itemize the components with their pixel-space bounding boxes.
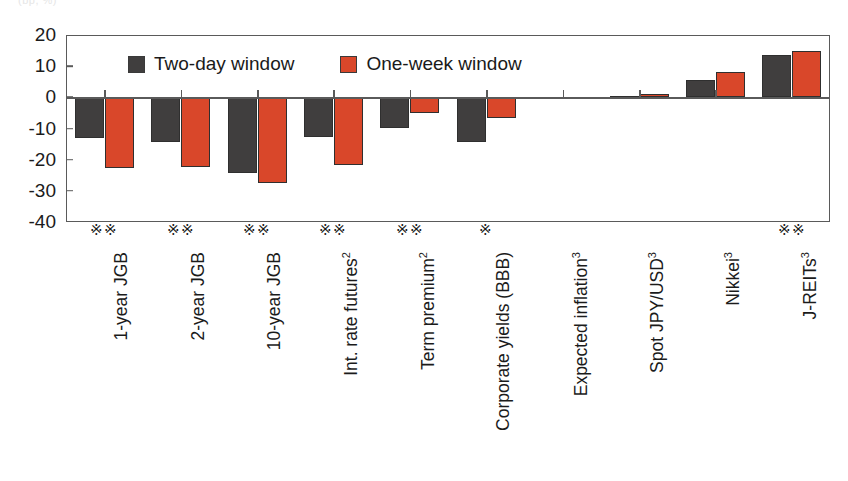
significance-mark: ※※ xyxy=(778,222,806,237)
x-axis-category-label: Int. rate futures2 xyxy=(340,252,362,376)
significance-mark: ※※ xyxy=(396,222,424,237)
unit-caption: (bp, %) xyxy=(18,0,57,6)
x-axis-category-label: Term premium2 xyxy=(417,252,439,370)
legend-swatch-icon xyxy=(340,56,357,73)
category-labels-layer: 1-year JGB2-year JGB10-year JGBInt. rate… xyxy=(66,252,830,452)
y-axis-tick-label: 20 xyxy=(35,24,56,46)
y-axis-labels: 20100-10-20-30-40 xyxy=(0,35,62,222)
y-axis-tick-mark xyxy=(66,128,73,130)
y-axis-tick-label: -10 xyxy=(29,118,56,140)
x-axis-tick-mark xyxy=(410,90,412,97)
x-axis-tick-mark xyxy=(333,90,335,97)
x-axis-category-label: Corporate yields (BBB) xyxy=(493,252,514,431)
bar xyxy=(762,55,791,97)
bar xyxy=(792,51,821,98)
x-axis-category-label: 10-year JGB xyxy=(264,252,285,350)
significance-mark: ※※ xyxy=(319,222,347,237)
significance-mark: ※※ xyxy=(90,222,118,237)
y-axis-tick-label: 10 xyxy=(35,55,56,77)
bar xyxy=(75,97,104,138)
bar xyxy=(304,97,333,137)
bar xyxy=(410,97,439,113)
x-axis-category-label: 1-year JGB xyxy=(111,252,132,341)
x-axis-tick-mark xyxy=(792,90,794,97)
y-axis-tick-mark xyxy=(66,65,73,67)
bar xyxy=(716,72,745,97)
bar xyxy=(105,97,134,168)
legend-swatch-icon xyxy=(128,56,145,73)
x-axis-tick-mark xyxy=(104,90,106,97)
y-axis-tick-mark xyxy=(66,190,73,192)
x-axis-tick-mark xyxy=(715,90,717,97)
bar xyxy=(181,97,210,167)
x-axis-category-label: J-REITs3 xyxy=(799,252,821,319)
y-axis-tick-mark xyxy=(66,159,73,161)
y-axis-tick-label: -30 xyxy=(29,180,56,202)
bar xyxy=(686,80,715,97)
y-axis-tick-label: -20 xyxy=(29,149,56,171)
legend-item-two-day: Two-day window xyxy=(128,53,294,75)
x-axis-category-label: Expected inflation3 xyxy=(570,252,592,396)
x-axis-category-label: 2-year JGB xyxy=(188,252,209,341)
bar xyxy=(228,97,257,172)
x-axis-tick-mark xyxy=(181,90,183,97)
x-axis-category-label: Nikkei3 xyxy=(722,252,744,306)
legend-item-one-week: One-week window xyxy=(340,53,521,75)
x-axis-tick-mark xyxy=(257,90,259,97)
x-axis-tick-mark xyxy=(486,90,488,97)
zero-line xyxy=(66,97,830,99)
bar xyxy=(487,97,516,117)
y-axis-tick-label: 0 xyxy=(45,86,56,108)
chart-root: (bp, %) 20100-10-20-30-40 Two-day window… xyxy=(0,0,848,481)
significance-mark: ※※ xyxy=(243,222,271,237)
bar xyxy=(334,97,363,165)
significance-mark: ※ xyxy=(479,222,493,237)
bar xyxy=(258,97,287,183)
significance-marks-layer: ※※※※※※※※※※※※※ xyxy=(66,222,830,248)
chart-legend: Two-day window One-week window xyxy=(128,53,522,75)
x-axis-category-label: Spot JPY/USD3 xyxy=(646,252,668,373)
significance-mark: ※※ xyxy=(167,222,195,237)
x-axis-tick-mark xyxy=(639,90,641,97)
x-axis-tick-mark xyxy=(563,90,565,97)
legend-label: Two-day window xyxy=(154,53,294,75)
legend-label: One-week window xyxy=(366,53,521,75)
bar xyxy=(151,97,180,142)
bar xyxy=(380,97,409,128)
y-axis-tick-label: -40 xyxy=(29,211,56,233)
bar xyxy=(457,97,486,142)
